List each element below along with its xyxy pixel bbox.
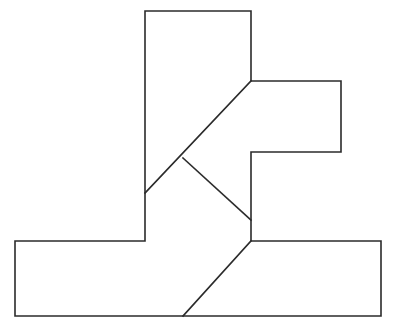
figure-canvas <box>0 0 395 336</box>
line-drawing-svg <box>0 0 395 336</box>
